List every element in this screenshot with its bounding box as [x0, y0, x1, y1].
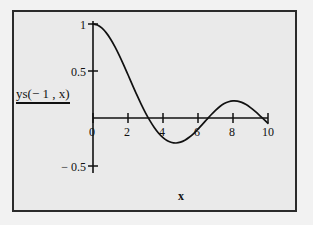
x-tick-label-0: 0 [89, 125, 95, 139]
x-axis-label: x [178, 189, 184, 204]
x-tick-label-2: 2 [124, 125, 130, 139]
y-tick-label-0p5: 0.5 [71, 65, 86, 79]
x-tick-label-10: 10 [262, 125, 274, 139]
x-tick-label-8: 8 [229, 125, 235, 139]
figure-root: born in Egypt in 1924 Cairo, Egypt in 19… [0, 0, 313, 225]
y-tick-label-1: 1 [80, 18, 86, 32]
data-curve-ys [93, 24, 268, 143]
y-tick-label-neg0p5: − 0.5 [61, 160, 86, 174]
plot-canvas: 0 2 4 6 8 10 1 0.5 − 0.5 [12, 10, 297, 212]
y-axis-label: ys(− 1 , x) [16, 86, 70, 104]
